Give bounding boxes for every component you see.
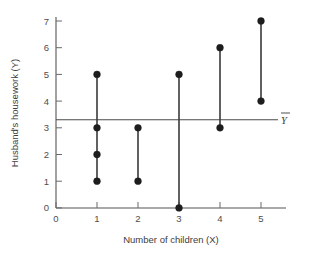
- x-tick-label: 5: [258, 213, 263, 224]
- scatter-plot: 7 6 5 4 3 2 1 0 0 1 2 3 4 5 Y: [0, 0, 309, 256]
- y-tick-label: 7: [44, 16, 49, 27]
- chart-figure: 7 6 5 4 3 2 1 0 0 1 2 3 4 5 Y: [0, 0, 309, 256]
- data-point: [176, 71, 183, 78]
- data-point: [135, 124, 142, 131]
- y-axis-ticks: [56, 21, 62, 208]
- x-tick-label: 4: [217, 213, 222, 224]
- data-point: [135, 178, 142, 185]
- stem-lines: [97, 21, 261, 208]
- x-axis-title: Number of children (X): [123, 234, 219, 245]
- y-tick-label: 1: [44, 176, 49, 187]
- data-point: [94, 178, 101, 185]
- data-point: [258, 18, 265, 25]
- data-point: [94, 124, 101, 131]
- mean-label-text: Y: [281, 115, 288, 126]
- x-tick-label: 3: [176, 213, 181, 224]
- y-axis-title: Husband's housework (Y): [9, 59, 20, 167]
- data-point: [217, 44, 224, 51]
- y-tick-label: 6: [44, 42, 49, 53]
- data-point: [258, 98, 265, 105]
- data-point: [94, 71, 101, 78]
- x-tick-labels: 0 1 2 3 4 5: [53, 213, 263, 224]
- x-tick-label: 2: [135, 213, 140, 224]
- y-tick-label: 2: [44, 149, 49, 160]
- y-tick-label: 0: [44, 202, 49, 213]
- y-tick-label: 3: [44, 122, 49, 133]
- x-axis-ticks: [56, 202, 261, 208]
- y-tick-labels: 7 6 5 4 3 2 1 0: [44, 16, 49, 214]
- x-tick-label: 0: [53, 213, 58, 224]
- data-point: [176, 205, 183, 212]
- mean-reference-label: Y: [281, 113, 290, 126]
- y-tick-label: 5: [44, 69, 49, 80]
- data-point: [217, 124, 224, 131]
- data-point: [94, 151, 101, 158]
- y-tick-label: 4: [44, 96, 49, 107]
- x-tick-label: 1: [94, 213, 99, 224]
